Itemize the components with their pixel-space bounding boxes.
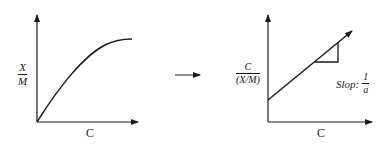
slope-fraction: 1 a xyxy=(362,72,369,95)
right-y-label-denominator: (X/M) xyxy=(236,74,260,85)
left-x-label: C xyxy=(86,127,94,139)
diagram-canvas xyxy=(0,0,392,151)
right-y-label-numerator: C xyxy=(244,62,253,73)
slope-denominator: a xyxy=(363,84,368,95)
left-y-label: X M xyxy=(18,62,27,87)
slope-label: Slop: xyxy=(336,78,359,90)
left-curve xyxy=(37,39,132,122)
right-x-label: C xyxy=(317,127,325,139)
left-chart-axes xyxy=(37,15,138,122)
right-y-label: C (X/M) xyxy=(236,62,260,85)
slope-numerator: 1 xyxy=(362,72,369,83)
left-y-label-numerator: X xyxy=(18,62,27,74)
slope-annotation: Slop: 1 a xyxy=(336,72,369,95)
right-chart-axes xyxy=(268,15,372,122)
left-y-label-denominator: M xyxy=(18,75,27,87)
